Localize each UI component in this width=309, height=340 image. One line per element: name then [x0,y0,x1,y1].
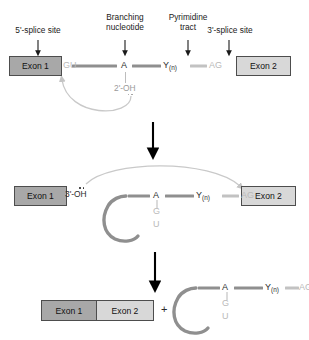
stage2-pyrimidine-tract-symbol: Y(n) [196,191,210,202]
pyrimidine-subscript: (n) [271,286,279,293]
intron-bar-y-to-ag-stage3 [285,287,299,290]
label-5prime-splice-site: 5'-splice site [4,26,72,36]
stage3-loop-letter-u: U [222,312,229,321]
lariat-loop-stage2 [104,196,138,241]
stage3-plus-sign: + [161,305,167,314]
stage2-lariat [104,195,239,242]
hydroxyl-label: 2'-OH [114,84,136,93]
hydroxyl-label: 3'-OH [65,190,87,199]
stage1-gu-dinucleotide: GU [63,61,77,70]
stage2-branch-adenine: A [153,191,159,200]
exon-label: Exon 1 [56,306,83,316]
stage2-three-prime-hydroxyl: 3'-OH [65,190,87,199]
stage3-ag-dinucleotide: AG [299,283,309,292]
pyrimidine-subscript: (n) [202,194,210,201]
intron-bar-a-to-y [132,65,161,68]
splicing-diagram: 5'-splice site Branching nucleotide Pyri… [0,0,309,340]
exon-label: Exon 2 [250,61,277,71]
lone-pair-dots [79,187,86,189]
exon-label: Exon 1 [22,61,49,71]
stage3-branch-adenine: A [222,283,228,292]
lariat-stub-stage2 [128,195,150,198]
lariat-loop-stage3 [174,288,208,333]
label-branching-nucleotide: Branching nucleotide [92,13,158,32]
lariat-stub-stage3 [198,287,220,290]
stage1-two-prime-hydroxyl: 2'-OH [114,84,136,93]
label-3prime-splice-site: 3'-splice site [198,26,262,36]
exon-ligation-curve-stage2 [86,166,240,186]
stage1-branch-adenine: A [121,61,127,70]
exon-label: Exon 1 [27,191,54,201]
stage1-exon1-box: Exon 1 [9,56,62,76]
intron-bar-a-to-y-stage3 [234,287,263,290]
intron-bar-gu-to-a [72,65,117,68]
intron-bar-y-to-ag-stage2 [222,195,239,198]
intron-bar-y-to-ag [190,65,207,68]
stage1-exon2-box: Exon 2 [236,56,291,76]
stage1-ag-dinucleotide: AG [209,61,222,70]
lone-pair-dots [128,94,135,96]
stage1-intron-bars [72,65,207,68]
exon-label: Exon 2 [255,191,282,201]
stage2-loop-letter-u: U [153,220,160,229]
diagram-vector-overlay [0,0,309,340]
label-line-2: nucleotide [92,23,158,33]
stage3-exon2-box: Exon 2 [96,300,154,321]
stage3-loop-letter-g: G [222,299,229,308]
pyrimidine-subscript: (n) [169,64,177,71]
stage1-pyrimidine-tract-symbol: Y(n) [163,61,177,72]
label-line-1: 3'-splice site [198,26,262,36]
exon-label: Exon 2 [112,306,139,316]
label-line-1: 5'-splice site [4,26,72,36]
stage3-exon1-box: Exon 1 [41,300,97,321]
stage2-exon1-box: Exon 1 [14,186,67,206]
intron-bar-a-to-y-stage2 [165,195,194,198]
stage2-loop-letter-g: G [153,207,160,216]
stage2-ag-dinucleotide: AG [241,191,254,200]
callout-arrows [38,40,229,52]
stage3-lariat [174,287,299,334]
stage3-pyrimidine-tract-symbol: Y(n) [265,283,279,294]
stage1-branch-tick [125,72,126,83]
